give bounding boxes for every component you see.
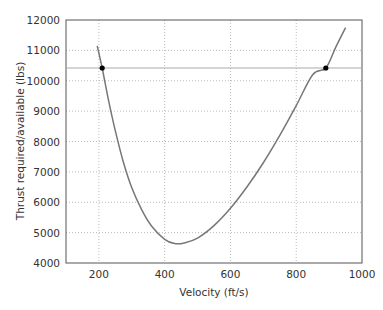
- y-tick-label: 12000: [27, 14, 60, 26]
- x-axis-ticks: 2004006008001000: [89, 268, 376, 280]
- x-tick-label: 1000: [349, 268, 376, 280]
- y-tick-label: 10000: [27, 75, 60, 87]
- y-tick-label: 9000: [33, 105, 60, 117]
- y-tick-label: 7000: [33, 166, 60, 178]
- y-tick-label: 8000: [33, 136, 60, 148]
- y-tick-label: 11000: [27, 44, 60, 56]
- y-axis-ticks: 400050006000700080009000100001100012000: [27, 14, 60, 269]
- intersection-point: [323, 65, 328, 70]
- y-tick-label: 5000: [33, 227, 60, 239]
- thrust-velocity-chart: 400050006000700080009000100001100012000 …: [0, 0, 383, 310]
- x-axis-label: Velocity (ft/s): [179, 286, 248, 298]
- x-tick-label: 400: [155, 268, 175, 280]
- x-tick-label: 200: [89, 268, 109, 280]
- y-tick-label: 6000: [33, 196, 60, 208]
- thrust-required-curve: [97, 28, 345, 244]
- y-axis-label: Thrust required/available (lbs): [14, 62, 26, 221]
- intersection-point: [100, 65, 105, 70]
- x-tick-label: 800: [286, 268, 306, 280]
- y-tick-label: 4000: [33, 257, 60, 269]
- x-tick-label: 600: [220, 268, 240, 280]
